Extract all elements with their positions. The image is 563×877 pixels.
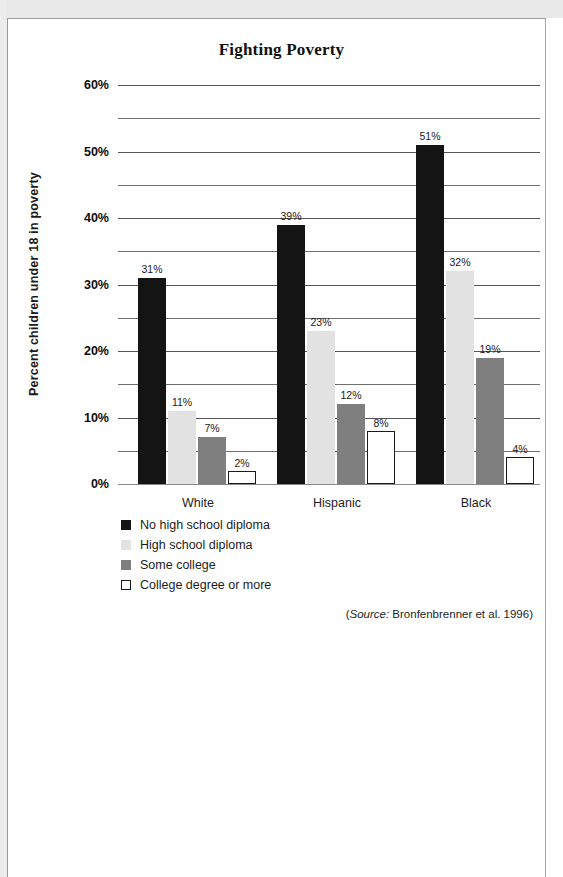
bar-white-series-1[interactable]: 11% <box>168 411 196 484</box>
legend-swatch-icon <box>121 540 131 550</box>
y-tick-label-60: 60% <box>84 78 109 92</box>
bar-value-label: 31% <box>141 263 162 275</box>
bar-hispanic-series-1[interactable]: 23% <box>307 331 335 484</box>
legend-label: College degree or more <box>140 578 271 592</box>
bar-white-series-2[interactable]: 7% <box>198 437 226 484</box>
legend-item-0[interactable]: No high school diploma <box>121 516 271 534</box>
bar-black-series-3[interactable]: 4% <box>506 457 534 484</box>
category-label-hispanic: Hispanic <box>267 496 407 510</box>
source-label: Source: <box>350 608 390 620</box>
chart-legend: No high school diplomaHigh school diplom… <box>121 516 271 596</box>
legend-item-1[interactable]: High school diploma <box>121 536 271 554</box>
bar-hispanic-series-3[interactable]: 8% <box>367 431 395 484</box>
bar-white-series-3[interactable]: 2% <box>228 471 256 484</box>
legend-label: No high school diploma <box>140 518 270 532</box>
bar-value-label: 39% <box>280 210 301 222</box>
legend-item-3[interactable]: College degree or more <box>121 576 271 594</box>
y-tick-label-40: 40% <box>84 211 109 225</box>
bar-value-label: 23% <box>310 316 331 328</box>
bar-white-series-0[interactable]: 31% <box>138 278 166 484</box>
y-tick-label-50: 50% <box>84 145 109 159</box>
bar-group-hispanic: 39%23%12%8% <box>277 85 397 484</box>
bar-value-label: 4% <box>512 443 527 455</box>
legend-swatch-icon <box>121 520 131 530</box>
y-tick-label-20: 20% <box>84 344 109 358</box>
y-tick-label-0: 0% <box>91 477 109 491</box>
bar-black-series-1[interactable]: 32% <box>446 271 474 484</box>
bar-group-white: 31%11%7%2% <box>138 85 258 484</box>
legend-item-2[interactable]: Some college <box>121 556 271 574</box>
category-label-black: Black <box>406 496 546 510</box>
bar-group-black: 51%32%19%4% <box>416 85 536 484</box>
bar-black-series-0[interactable]: 51% <box>416 145 444 484</box>
source-citation: Bronfenbrenner et al. 1996) <box>389 608 533 620</box>
plot-area: 0%10%20%30%40%50%60% 31%11%7%2%39%23%12%… <box>118 85 540 484</box>
legend-swatch-icon <box>121 580 131 590</box>
bar-value-label: 51% <box>419 130 440 142</box>
bar-hispanic-series-2[interactable]: 12% <box>337 404 365 484</box>
bar-value-label: 2% <box>234 457 249 469</box>
bar-value-label: 11% <box>172 396 192 408</box>
bar-value-label: 7% <box>204 422 219 434</box>
bar-value-label: 8% <box>373 417 388 429</box>
bar-hispanic-series-0[interactable]: 39% <box>277 225 305 484</box>
bar-value-label: 32% <box>449 256 470 268</box>
category-label-white: White <box>128 496 268 510</box>
legend-label: High school diploma <box>140 538 253 552</box>
chart-title: Fighting Poverty <box>0 40 563 60</box>
y-tick-label-10: 10% <box>84 411 109 425</box>
source-note: (Source: Bronfenbrenner et al. 1996) <box>0 608 533 620</box>
x-axis-line <box>118 484 540 485</box>
bar-black-series-2[interactable]: 19% <box>476 358 504 484</box>
poverty-bar-chart-figure: Fighting Poverty Percent children under … <box>0 0 563 877</box>
legend-label: Some college <box>140 558 216 572</box>
bar-value-label: 12% <box>340 389 361 401</box>
y-tick-label-30: 30% <box>84 278 109 292</box>
y-axis-title: Percent children under 18 in poverty <box>27 134 41 434</box>
legend-swatch-icon <box>121 560 131 570</box>
bar-value-label: 19% <box>479 343 500 355</box>
